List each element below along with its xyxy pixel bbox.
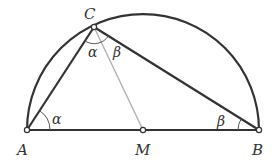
- angle-label-beta-b: β: [216, 113, 225, 129]
- angle-label-beta-c: β: [112, 44, 121, 60]
- diagram-canvas: C A M B α α β β: [0, 0, 278, 162]
- point-c-marker: [91, 24, 96, 29]
- angle-arc-a: [40, 111, 51, 130]
- point-a-marker: [24, 127, 29, 132]
- label-a: A: [15, 141, 28, 159]
- label-c: C: [84, 5, 96, 23]
- label-b: B: [251, 141, 263, 159]
- point-m-marker: [140, 127, 145, 132]
- angle-label-alpha-c: α: [88, 44, 98, 60]
- label-m: M: [134, 141, 151, 159]
- point-b-marker: [256, 127, 261, 132]
- angle-label-alpha-a: α: [52, 111, 62, 127]
- angle-arc-b: [238, 119, 241, 130]
